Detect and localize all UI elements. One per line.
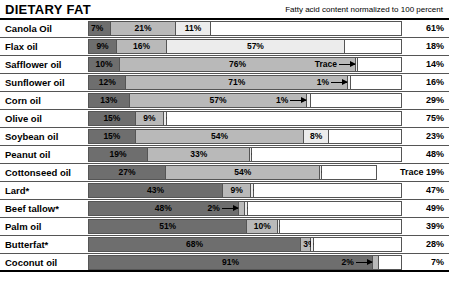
bar-segment	[211, 22, 401, 35]
segment-value-label: 27%	[89, 166, 165, 179]
row-total-label: 75%	[426, 110, 444, 127]
row-total-label: 29%	[426, 92, 444, 109]
bar-segment: 57%	[130, 94, 308, 107]
oil-name-label: Butterfat*	[5, 236, 48, 253]
table-row: Flax oil9%16%57%18%	[0, 38, 449, 56]
segment-value-label: 9%	[223, 184, 250, 197]
bar-segment: 51%	[89, 220, 247, 233]
oil-name-label: Flax oil	[5, 38, 38, 55]
stacked-bar: 9%16%57%	[88, 39, 402, 54]
bar-segment: 9%	[89, 40, 117, 53]
stacked-bar: 91%2%	[88, 255, 402, 270]
bar-segment	[329, 130, 401, 143]
chart-header: DIETARY FAT Fatty acid content normalize…	[0, 0, 449, 20]
bar-segment: 54%	[136, 130, 304, 143]
segment-value-label: 54%	[166, 166, 319, 179]
bar-segment	[280, 220, 401, 233]
bar-segment: 15%	[89, 112, 136, 125]
stacked-bar: 51%10%Trace	[88, 219, 402, 234]
segment-value-label: 68%	[89, 238, 300, 251]
segment-value-label: 15%	[89, 130, 135, 143]
bar-segment: 54%	[166, 166, 320, 179]
bar-segment	[311, 94, 401, 107]
table-row: Soybean oil15%54%8%23%	[0, 128, 449, 146]
bar-segment	[322, 166, 376, 179]
oil-name-label: Cottonseed oil	[5, 164, 71, 181]
row-total-label: 14%	[426, 56, 444, 73]
oil-name-label: Safflower oil	[5, 56, 61, 73]
bar-segment	[252, 148, 401, 161]
segment-value-label: 43%	[89, 184, 222, 197]
bar-segment: 57%	[167, 40, 345, 53]
row-total-label: 28%	[426, 236, 444, 253]
segment-value-label: 8%	[304, 130, 328, 143]
segment-value-label: 48%	[89, 202, 238, 215]
table-row: Sunflower oil12%71%1%16%	[0, 74, 449, 92]
oil-name-label: Lard*	[5, 182, 29, 199]
segment-value-label: 11%	[176, 22, 209, 35]
bar-segment: 43%	[89, 184, 223, 197]
stacked-bar: 10%76%Trace	[88, 57, 402, 72]
segment-value-label: 15%	[89, 112, 135, 125]
table-row: Canola Oil7%21%11%61%	[0, 20, 449, 38]
segment-value-label: 19%	[89, 148, 147, 161]
bar-segment: 11%	[176, 22, 210, 35]
segment-value-label: 54%	[136, 130, 303, 143]
bar-segment: 71%	[126, 76, 348, 89]
segment-value-label: 3%	[301, 238, 309, 251]
segment-value-label: 10%	[247, 220, 277, 233]
bar-segment: 19%	[89, 148, 148, 161]
bar-segment: 16%	[117, 40, 167, 53]
stacked-bar: 7%21%11%	[88, 21, 402, 36]
chart-rows: Canola Oil7%21%11%61%Flax oil9%16%57%18%…	[0, 20, 449, 272]
segment-value-label: 10%	[89, 58, 119, 71]
bar-segment: 3%	[301, 238, 310, 251]
oil-name-label: Corn oil	[5, 92, 41, 109]
segment-value-label: 9%	[136, 112, 163, 125]
dietary-fat-chart: DIETARY FAT Fatty acid content normalize…	[0, 0, 449, 291]
segment-value-label: 16%	[117, 40, 166, 53]
table-row: Safflower oil10%76%Trace14%	[0, 56, 449, 74]
page-title: DIETARY FAT	[5, 2, 91, 17]
bar-segment: 9%	[136, 112, 164, 125]
chart-subtitle: Fatty acid content normalized to 100 per…	[285, 5, 443, 14]
row-total-label: 61%	[426, 20, 444, 37]
row-total-label: 16%	[426, 74, 444, 91]
stacked-bar: 68%3%1%	[88, 237, 402, 252]
segment-value-label: 13%	[89, 94, 129, 107]
bar-segment: 12%	[89, 76, 126, 89]
oil-name-label: Olive oil	[5, 110, 42, 127]
oil-name-label: Coconut oil	[5, 254, 57, 271]
bar-segment	[314, 238, 401, 251]
stacked-bar: 13%57%1%	[88, 93, 402, 108]
table-row: Palm oil51%10%Trace39%	[0, 218, 449, 236]
segment-value-label: 21%	[111, 22, 176, 35]
stacked-bar: 12%71%1%	[88, 75, 402, 90]
stacked-bar: 48%2%1%	[88, 201, 402, 216]
row-total-label: 23%	[426, 128, 444, 145]
bar-segment: 91%	[89, 256, 373, 269]
bar-segment: 7%	[89, 22, 111, 35]
table-row: Butterfat*68%3%1%28%	[0, 236, 449, 254]
oil-name-label: Sunflower oil	[5, 74, 65, 91]
table-row: Olive oil15%9%1%75%	[0, 110, 449, 128]
bar-segment: 8%	[304, 130, 329, 143]
table-row: Cottonseed oil27%54%Trace 19%	[0, 164, 449, 182]
row-total-label: 7%	[431, 254, 444, 271]
oil-name-label: Canola Oil	[5, 20, 52, 37]
segment-value-label: 33%	[148, 148, 249, 161]
segment-value-label: 7%	[89, 22, 110, 35]
stacked-bar: 27%54%	[88, 165, 377, 180]
bar-segment: 68%	[89, 238, 301, 251]
bar-segment: 15%	[89, 130, 136, 143]
bar-segment: 10%	[247, 220, 278, 233]
oil-name-label: Palm oil	[5, 218, 41, 235]
table-row: Peanut oil19%33%Trace48%	[0, 146, 449, 164]
row-total-label: Trace 19%	[400, 164, 444, 181]
segment-value-label: 57%	[167, 40, 344, 53]
bar-segment: 21%	[111, 22, 177, 35]
bar-segment: 48%	[89, 202, 239, 215]
bar-segment	[254, 184, 401, 197]
table-row: Coconut oil91%2%7%	[0, 254, 449, 272]
stacked-bar: 19%33%Trace	[88, 147, 402, 162]
